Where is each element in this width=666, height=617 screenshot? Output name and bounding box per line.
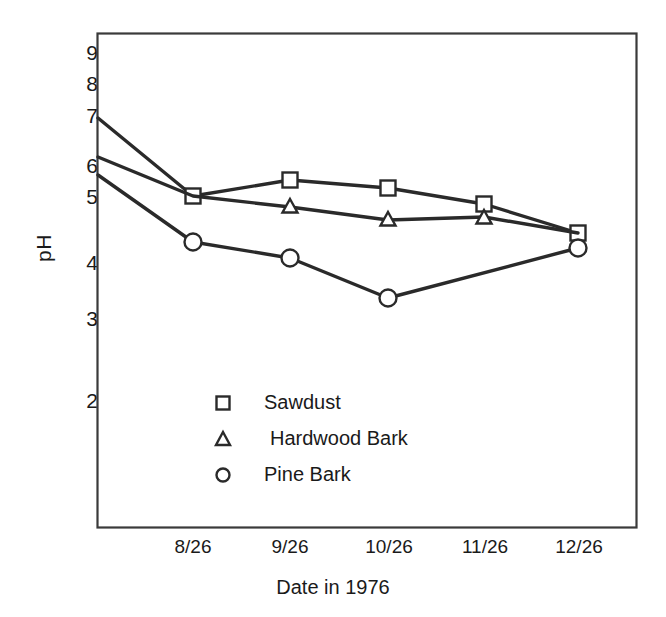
marker-sawdust-9-26	[283, 173, 298, 188]
series-hardwood-bark	[98, 157, 578, 233]
marker-sawdust-10-26	[381, 181, 396, 196]
x-tick-label-10-26: 10/26	[343, 537, 435, 556]
legend-label-sawdust: Sawdust	[264, 391, 341, 413]
square-icon	[212, 392, 234, 414]
marker-pine-12-26	[570, 240, 587, 257]
plot-area	[0, 0, 666, 617]
x-tick-label-9-26: 9/26	[250, 537, 330, 556]
series-line-sawdust	[98, 118, 578, 233]
marker-pine-10-26	[380, 290, 397, 307]
legend-label-pine-bark: Pine Bark	[264, 463, 351, 485]
legend-item-hardwood-bark: Hardwood Bark	[212, 424, 482, 460]
x-tick-label-12-26: 12/26	[533, 537, 625, 556]
circle-icon	[212, 464, 234, 486]
x-axis-label: Date in 1976	[0, 576, 666, 599]
x-tick-label-8-26: 8/26	[153, 537, 233, 556]
legend-item-pine-bark: Pine Bark	[212, 460, 482, 496]
series-line-pine-bark	[98, 175, 578, 298]
legend-item-sawdust: Sawdust	[212, 388, 482, 424]
marker-pine-8-26	[185, 234, 202, 251]
triangle-icon	[212, 428, 234, 450]
legend-label-hardwood-bark: Hardwood Bark	[270, 427, 408, 449]
marker-pine-9-26	[282, 250, 299, 267]
chart-legend: Sawdust Hardwood Bark Pine Bark	[212, 388, 482, 496]
series-pine-bark	[98, 175, 587, 307]
series-line-hardwood-bark	[98, 157, 578, 233]
chart-figure: pH 9 8 7 6 5 4 3 2	[0, 0, 666, 617]
x-tick-label-11-26: 11/26	[439, 537, 531, 556]
